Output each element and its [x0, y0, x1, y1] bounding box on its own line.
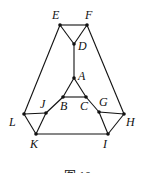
edge-J-K — [36, 113, 46, 134]
edge-A-B — [63, 78, 74, 97]
edge-L-K — [24, 114, 36, 134]
graph-diagram: EFDABCJGLHKI 图 10 — [0, 0, 144, 173]
node-label-J: J — [40, 97, 46, 111]
node-E — [58, 23, 62, 27]
node-label-H: H — [125, 115, 136, 129]
node-L — [22, 112, 26, 116]
edge-L-J — [24, 113, 46, 114]
edge-G-I — [99, 112, 108, 134]
node-D — [72, 42, 76, 46]
node-label-A: A — [77, 69, 86, 83]
node-F — [85, 23, 89, 27]
node-label-C: C — [80, 99, 89, 113]
node-label-L: L — [8, 115, 16, 129]
node-label-D: D — [77, 39, 87, 53]
node-J — [44, 111, 48, 115]
node-label-K: K — [29, 137, 39, 151]
node-label-E: E — [51, 8, 60, 22]
edge-E-D — [60, 25, 74, 44]
node-label-F: F — [84, 8, 93, 22]
node-I — [106, 132, 110, 136]
edge-H-I — [108, 114, 124, 134]
node-G — [97, 110, 101, 114]
edge-G-H — [99, 112, 124, 114]
figure-caption: 图 10 — [64, 169, 91, 173]
node-label-G: G — [99, 95, 108, 109]
node-A — [72, 76, 76, 80]
graph-labels: EFDABCJGLHKI — [8, 8, 136, 151]
node-label-B: B — [60, 99, 68, 113]
node-K — [34, 132, 38, 136]
node-label-I: I — [102, 137, 108, 151]
